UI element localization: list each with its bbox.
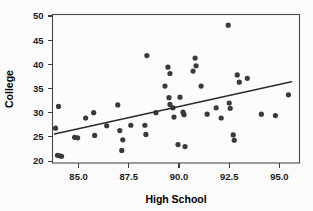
data-point (232, 138, 237, 143)
data-point (237, 80, 242, 85)
data-point (182, 144, 187, 149)
data-point (177, 95, 182, 100)
x-tick-label: 85.0 (69, 171, 88, 182)
data-point (175, 142, 180, 147)
data-point (144, 53, 149, 58)
data-point (286, 92, 291, 97)
data-point (115, 102, 120, 107)
data-point (143, 132, 148, 137)
data-point (119, 148, 124, 153)
data-point (192, 55, 197, 60)
chart-canvas: 85.087.590.092.595.0 20253035404550 High… (0, 0, 313, 211)
y-tick-label: 40 (33, 59, 44, 70)
data-point (128, 123, 133, 128)
data-point (56, 104, 61, 109)
y-tick-label: 35 (33, 83, 44, 94)
data-point (226, 23, 231, 28)
x-tick-label: 95.0 (270, 171, 289, 182)
data-point (235, 72, 240, 77)
data-point (92, 133, 97, 138)
data-point (83, 115, 88, 120)
data-point (104, 123, 109, 128)
y-tick-label: 30 (33, 107, 44, 118)
data-point (59, 154, 64, 159)
data-point (53, 126, 58, 131)
data-point (219, 115, 224, 120)
x-tick-label: 90.0 (170, 171, 189, 182)
data-point (165, 65, 170, 70)
data-point (231, 132, 236, 137)
data-point (228, 106, 233, 111)
data-point (227, 100, 232, 105)
data-point (245, 76, 250, 81)
x-tick-label: 92.5 (220, 171, 239, 182)
data-point (167, 71, 172, 76)
data-point (75, 135, 80, 140)
y-tick-label: 25 (33, 131, 44, 142)
y-tick-label: 50 (33, 10, 44, 21)
data-point (199, 83, 204, 88)
data-point (193, 63, 198, 68)
data-point (259, 112, 264, 117)
data-point (91, 110, 96, 115)
x-axis-title: High School (145, 193, 206, 205)
data-point (166, 95, 171, 100)
data-point (120, 137, 125, 142)
data-point (117, 128, 122, 133)
y-axis-title: College (3, 70, 15, 108)
data-point (205, 112, 210, 117)
data-point (214, 105, 219, 110)
data-point (171, 114, 176, 119)
x-tick-label: 87.5 (120, 171, 139, 182)
scatter-plot-figure: 85.087.590.092.595.0 20253035404550 High… (0, 0, 313, 211)
data-point (181, 112, 186, 117)
y-tick-label: 45 (33, 35, 44, 46)
data-point (273, 113, 278, 118)
y-tick-label: 20 (33, 155, 44, 166)
data-point (142, 123, 147, 128)
data-point (190, 68, 195, 73)
data-point (162, 83, 167, 88)
